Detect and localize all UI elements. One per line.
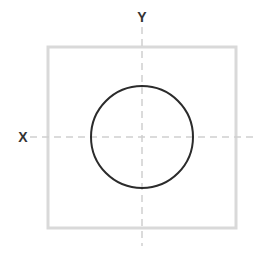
x-axis-label: X	[18, 129, 28, 145]
section-diagram: Y X	[0, 0, 258, 255]
y-axis-label: Y	[137, 9, 147, 25]
